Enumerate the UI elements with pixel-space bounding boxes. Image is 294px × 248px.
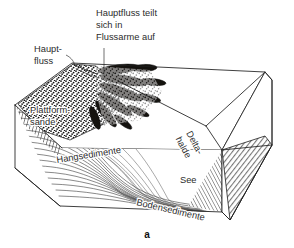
label-main-river: Haupt- fluss Haupt- fluss [34, 44, 62, 66]
label-lake-text: See [180, 175, 197, 185]
label-distributaries-line1: Hauptfluss teilt [96, 8, 157, 18]
label-distributaries: Hauptfluss teilt sich in Flussarme auf H… [96, 8, 157, 42]
label-main-river-line1: Haupt- [34, 44, 62, 54]
label-lake: See See [180, 175, 197, 185]
figure-caption-text: a [144, 229, 150, 240]
label-platform-sands-line1: Plattform- [30, 105, 70, 115]
delta-block-diagram: Hauptfluss teilt sich in Flussarme auf H… [0, 0, 294, 248]
label-distributaries-line2: sich in [96, 20, 122, 30]
figure-caption: a [144, 229, 150, 240]
label-platform-sands-line2: sande [30, 117, 55, 127]
label-main-river-line2: fluss [34, 56, 53, 66]
diagram-canvas: Hauptfluss teilt sich in Flussarme auf H… [0, 0, 294, 248]
label-distributaries-line3: Flussarme auf [96, 32, 155, 42]
